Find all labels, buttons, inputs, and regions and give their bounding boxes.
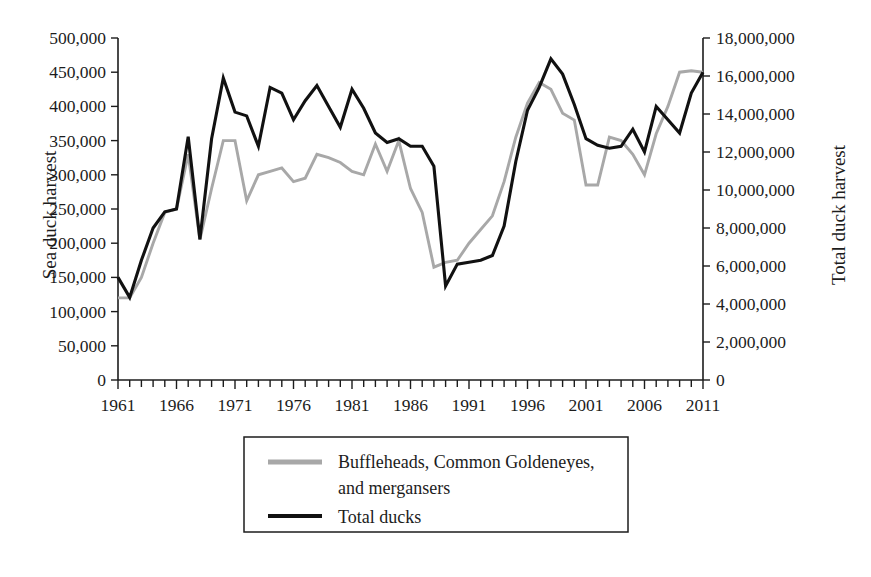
right-tick-label: 2,000,000 [716, 332, 786, 352]
left-tick-label: 450,000 [49, 62, 106, 82]
right-tick-label: 14,000,000 [716, 104, 795, 124]
right-tick-label: 6,000,000 [716, 256, 786, 276]
left-tick-label: 100,000 [49, 302, 106, 322]
left-tick-label: 500,000 [49, 28, 106, 48]
legend-label-sea-ducks-line1: Buffleheads, Common Goldeneyes, [338, 452, 595, 472]
left-tick-label: 250,000 [49, 199, 106, 219]
left-tick-label: 0 [97, 370, 106, 390]
right-tick-label: 0 [716, 370, 725, 390]
right-tick-label: 18,000,000 [716, 28, 795, 48]
x-tick-label: 2011 [686, 395, 720, 415]
x-tick-label: 1986 [393, 395, 428, 415]
x-tick-label: 1976 [276, 395, 311, 415]
right-tick-label: 10,000,000 [716, 180, 795, 200]
right-tick-label: 4,000,000 [716, 294, 786, 314]
line-chart: Sea duck harvest Total duck harvest 050,… [0, 0, 871, 577]
right-tick-label: 8,000,000 [716, 218, 786, 238]
left-tick-label: 350,000 [49, 131, 106, 151]
left-tick-label: 400,000 [49, 96, 106, 116]
left-tick-label: 300,000 [49, 165, 106, 185]
x-tick-label: 1991 [452, 395, 487, 415]
x-tick-label: 1996 [510, 395, 545, 415]
x-tick-label: 1981 [335, 395, 370, 415]
legend-label-total-ducks: Total ducks [338, 507, 421, 527]
left-tick-label: 200,000 [49, 233, 106, 253]
right-axis-title: Total duck harvest [828, 144, 849, 285]
x-tick-label: 1961 [101, 395, 136, 415]
right-tick-label: 16,000,000 [716, 66, 795, 86]
x-tick-label: 2006 [627, 395, 662, 415]
chart-figure: Sea duck harvest Total duck harvest 050,… [0, 0, 871, 577]
legend-label-sea-ducks-line2: and mergansers [338, 478, 450, 498]
chart-legend: Buffleheads, Common Goldeneyes, and merg… [244, 437, 628, 532]
x-tick-label: 1966 [159, 395, 194, 415]
left-tick-label: 150,000 [49, 267, 106, 287]
right-tick-label: 12,000,000 [716, 142, 795, 162]
left-tick-label: 50,000 [58, 336, 106, 356]
x-tick-label: 2001 [569, 395, 604, 415]
x-tick-label: 1971 [218, 395, 253, 415]
